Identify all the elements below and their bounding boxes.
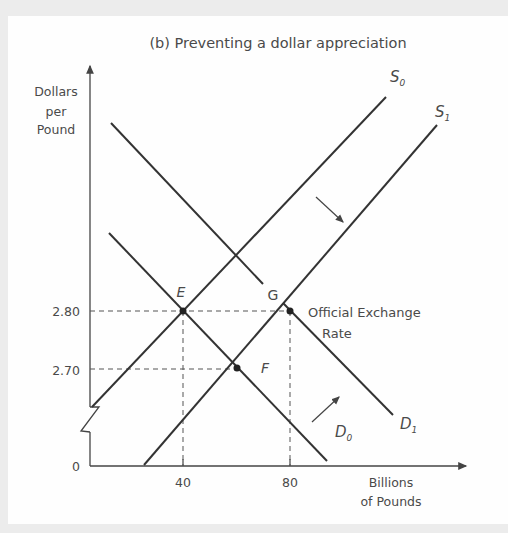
exchange-rate-chart: (b) Preventing a dollar appreciation Dol… <box>0 0 508 533</box>
x-tick-80: 80 <box>282 475 298 490</box>
y-axis-label-line1: Dollars <box>34 84 78 99</box>
y-tick-2-80: 2.80 <box>52 304 80 319</box>
y-axis-label-line2: per <box>46 104 68 119</box>
y-tick-0: 0 <box>72 459 80 474</box>
supply-curve-s0 <box>92 97 386 407</box>
point-g-label: G <box>268 287 279 303</box>
y-axis <box>81 66 99 466</box>
official-rate-label: Official Exchange <box>308 305 421 320</box>
x-axis-label-line2: of Pounds <box>360 494 421 509</box>
official-rate-label-line2: Rate <box>322 326 352 341</box>
d1-label: D1 <box>400 415 417 435</box>
point-e-label: E <box>177 284 186 300</box>
guide-lines <box>90 311 290 466</box>
official-rate-dot <box>287 308 294 315</box>
x-axis-label-line1: Billions <box>369 475 414 490</box>
point-f-label: F <box>261 360 270 376</box>
point-f-dot <box>234 365 241 372</box>
supply-shift-arrow-icon <box>316 197 343 222</box>
demand-shift-arrow-icon <box>312 397 339 422</box>
chart-title: (b) Preventing a dollar appreciation <box>149 35 406 51</box>
s1-label: S1 <box>435 103 450 123</box>
y-tick-2-70: 2.70 <box>52 363 80 378</box>
d0-label: D0 <box>335 423 353 443</box>
s0-label: S0 <box>390 68 406 88</box>
x-tick-40: 40 <box>175 475 191 490</box>
point-e-dot <box>180 308 187 315</box>
y-axis-label-line3: Pound <box>37 122 76 137</box>
demand-curve-d0 <box>109 233 327 461</box>
